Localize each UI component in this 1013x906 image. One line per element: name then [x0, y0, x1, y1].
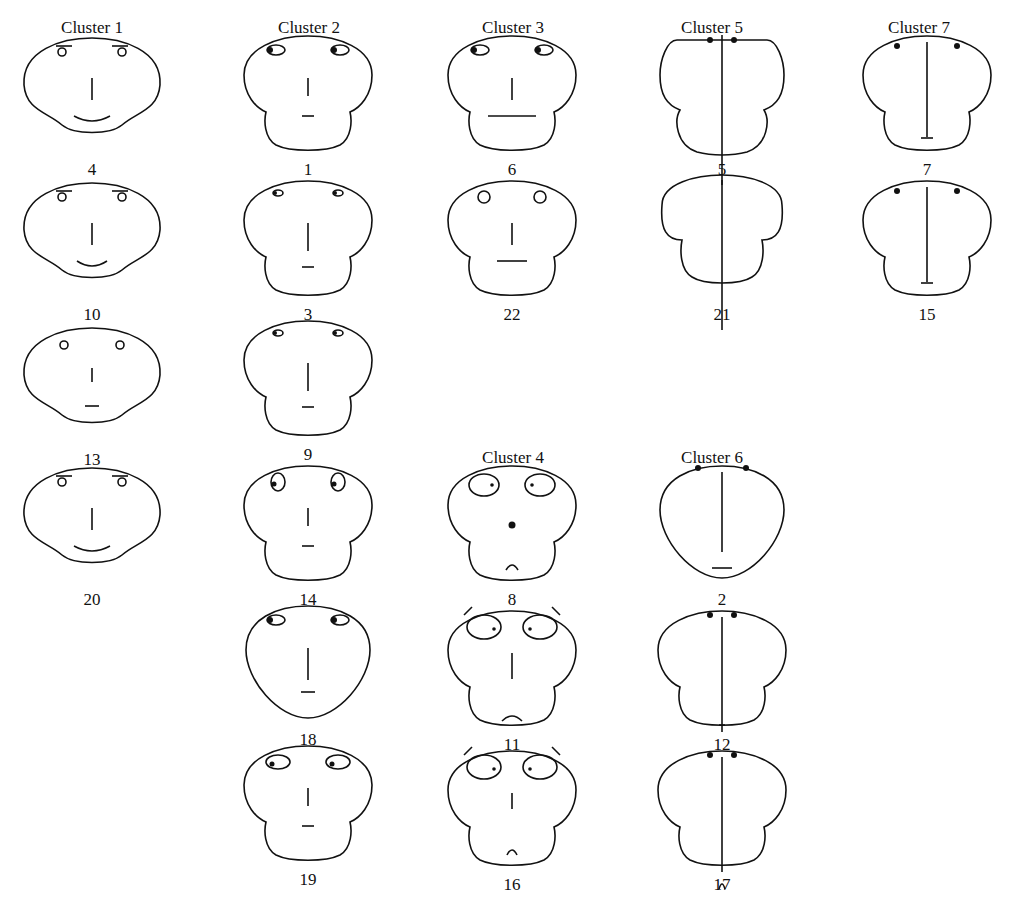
chernoff-face-4 [22, 20, 162, 160]
face-drawing-icon [238, 730, 378, 870]
chernoff-face-14 [238, 450, 378, 590]
face-drawing-icon [22, 450, 162, 590]
face-drawing-icon [238, 305, 378, 445]
face-drawing-icon [857, 20, 997, 160]
chernoff-face-17 [652, 735, 792, 875]
face-drawing-icon [652, 165, 792, 305]
chernoff-face-9 [238, 305, 378, 445]
face-drawing-icon [238, 450, 378, 590]
chernoff-face-6 [442, 20, 582, 160]
chernoff-face-12 [652, 595, 792, 735]
face-drawing-icon [442, 165, 582, 305]
face-drawing-icon [22, 165, 162, 305]
face-drawing-icon [857, 165, 997, 305]
face-drawing-icon [238, 165, 378, 305]
chernoff-face-21 [652, 165, 792, 305]
face-drawing-icon [238, 20, 378, 160]
face-label-19: 19 [238, 870, 378, 890]
chernoff-face-2 [652, 450, 792, 590]
face-drawing-icon [442, 20, 582, 160]
face-drawing-icon [22, 20, 162, 160]
face-label-16: 16 [442, 875, 582, 895]
face-label-15: 15 [857, 305, 997, 325]
face-drawing-icon [442, 450, 582, 590]
face-label-21: 21 [652, 305, 792, 325]
chernoff-face-19 [238, 730, 378, 870]
face-label-20: 20 [22, 590, 162, 610]
chernoff-face-8 [442, 450, 582, 590]
chernoff-face-22 [442, 165, 582, 305]
face-label-17: 17 [652, 875, 792, 895]
chernoff-face-5 [652, 20, 792, 160]
chernoff-face-1 [238, 20, 378, 160]
chernoff-face-20 [22, 450, 162, 590]
chernoff-face-11 [442, 595, 582, 735]
chernoff-face-3 [238, 165, 378, 305]
face-drawing-icon [652, 595, 792, 735]
chernoff-face-10 [22, 165, 162, 305]
face-drawing-icon [652, 450, 792, 590]
face-drawing-icon [442, 595, 582, 735]
face-drawing-icon [442, 735, 582, 875]
face-drawing-icon [652, 20, 792, 160]
chernoff-face-18 [238, 590, 378, 730]
chernoff-face-7 [857, 20, 997, 160]
chernoff-face-15 [857, 165, 997, 305]
chernoff-face-13 [22, 310, 162, 450]
face-drawing-icon [652, 735, 792, 875]
chernoff-face-16 [442, 735, 582, 875]
face-drawing-icon [22, 310, 162, 450]
face-label-22: 22 [442, 305, 582, 325]
face-drawing-icon [238, 590, 378, 730]
